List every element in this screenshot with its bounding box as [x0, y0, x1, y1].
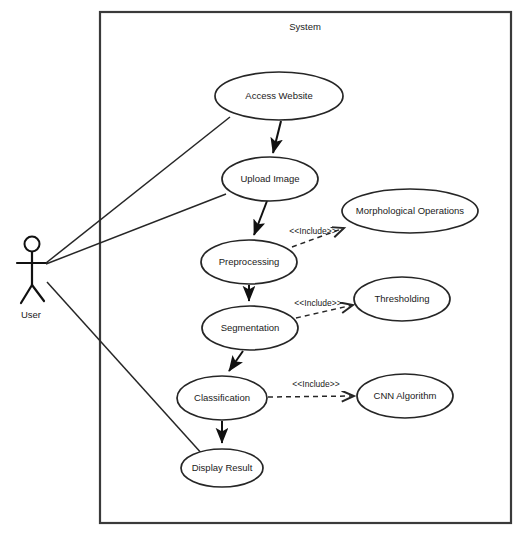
flow-access-website-to-upload-image[interactable] [273, 121, 281, 153]
use-case-label-thresholding: Thresholding [375, 293, 430, 304]
actor-user[interactable]: User [17, 237, 47, 320]
association-user-display-result[interactable] [47, 282, 203, 455]
use-case-preprocessing[interactable]: Preprocessing [201, 240, 297, 284]
use-case-segmentation[interactable]: Segmentation [202, 306, 298, 350]
association-user-access-website[interactable] [46, 117, 230, 263]
use-case-upload-image[interactable]: Upload Image [222, 157, 318, 201]
system-boundary-label: System [289, 21, 321, 32]
flow-segmentation-to-classification[interactable] [229, 351, 243, 371]
use-case-label-morphological-operations: Morphological Operations [356, 205, 465, 216]
use-case-diagram-canvas: System User <<Include>> [0, 0, 528, 543]
use-case-label-preprocessing: Preprocessing [219, 256, 280, 267]
include-label-cnn-algorithm: <<Include>> [292, 379, 339, 389]
use-case-label-upload-image: Upload Image [240, 173, 299, 184]
use-case-label-cnn-algorithm: CNN Algorithm [374, 390, 437, 401]
actor-left-leg-icon [21, 285, 32, 303]
use-case-label-access-website: Access Website [245, 90, 312, 101]
use-case-label-classification: Classification [194, 392, 250, 403]
actor-label-user: User [21, 309, 41, 320]
use-case-cnn-algorithm[interactable]: CNN Algorithm [357, 374, 453, 418]
use-case-access-website[interactable]: Access Website [215, 72, 343, 120]
use-case-display-result[interactable]: Display Result [181, 449, 263, 487]
include-classification-to-cnn-algorithm[interactable] [268, 396, 354, 397]
uml-diagram-svg: System User <<Include>> [0, 0, 528, 543]
use-case-classification[interactable]: Classification [177, 376, 267, 420]
actor-head-icon [25, 237, 40, 252]
include-label-thresholding: <<Include>> [294, 298, 341, 308]
association-user-upload-image[interactable] [46, 194, 226, 264]
use-case-thresholding[interactable]: Thresholding [354, 277, 450, 321]
actor-right-leg-icon [32, 285, 44, 301]
include-label-morphological-operations: <<Include>> [289, 226, 336, 236]
use-case-label-display-result: Display Result [192, 462, 253, 473]
use-case-label-segmentation: Segmentation [221, 322, 280, 333]
use-case-morphological-operations[interactable]: Morphological Operations [342, 189, 478, 233]
flow-upload-image-to-preprocessing[interactable] [254, 201, 267, 235]
